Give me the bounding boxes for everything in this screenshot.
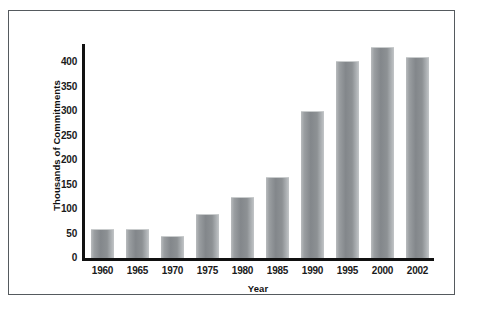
y-tick-label: 250 — [44, 131, 77, 141]
y-tick-label: 100 — [44, 204, 77, 214]
bar-2000[interactable] — [371, 47, 394, 258]
y-axis-title: Thousands of Commitments — [51, 46, 62, 246]
y-tick-label: 350 — [44, 82, 77, 92]
y-tick-label: 200 — [44, 155, 77, 165]
y-tick-label: 150 — [44, 180, 77, 190]
y-tick-50: 50 — [44, 229, 77, 239]
bar-group — [85, 40, 435, 258]
y-tick-350: 350 — [44, 82, 77, 92]
bar-1970[interactable] — [161, 236, 184, 258]
y-tick-label: 0 — [44, 253, 77, 263]
x-tick-label-2002: 2002 — [396, 266, 440, 276]
bar-1960[interactable] — [91, 229, 114, 258]
bar-slot — [155, 40, 190, 258]
bar-1990[interactable] — [301, 111, 324, 258]
bar-1980[interactable] — [231, 197, 254, 258]
bar-slot — [365, 40, 400, 258]
y-tick-400: 400 — [44, 57, 77, 67]
bar-1965[interactable] — [126, 229, 149, 258]
bar-1975[interactable] — [196, 214, 219, 258]
bar-slot — [295, 40, 330, 258]
bar-slot — [190, 40, 225, 258]
bar-slot — [330, 40, 365, 258]
bar-1995[interactable] — [336, 61, 359, 258]
y-tick-0: 0 — [44, 253, 77, 263]
y-tick-label: 400 — [44, 57, 77, 67]
bar-1985[interactable] — [266, 177, 289, 258]
x-axis-line — [82, 258, 434, 261]
y-tick-300: 300 — [44, 106, 77, 116]
bar-2002[interactable] — [406, 57, 429, 258]
y-tick-100: 100 — [44, 204, 77, 214]
y-tick-200: 200 — [44, 155, 77, 165]
bar-slot — [120, 40, 155, 258]
bar-slot — [260, 40, 295, 258]
bar-slot — [400, 40, 435, 258]
bar-chart-plot: Thousands of Commitments 050100150200250… — [0, 0, 478, 326]
y-tick-label: 50 — [44, 229, 77, 239]
bar-slot — [225, 40, 260, 258]
y-tick-label: 300 — [44, 106, 77, 116]
chart-page: Thousands of Commitments 050100150200250… — [0, 0, 478, 326]
y-tick-150: 150 — [44, 180, 77, 190]
y-tick-250: 250 — [44, 131, 77, 141]
bar-slot — [85, 40, 120, 258]
x-axis-title: Year — [82, 283, 434, 294]
